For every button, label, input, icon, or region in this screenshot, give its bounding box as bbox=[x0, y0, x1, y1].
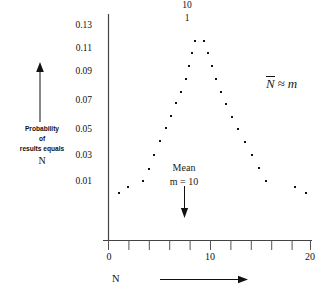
data-point bbox=[142, 180, 144, 182]
data-point bbox=[207, 52, 209, 54]
data-point bbox=[225, 103, 227, 105]
data-point bbox=[203, 40, 205, 42]
x-tick-label: 10 bbox=[200, 252, 220, 263]
data-point bbox=[118, 192, 120, 194]
top-annotation-1: 1 bbox=[178, 14, 196, 24]
data-point bbox=[244, 141, 246, 143]
y-axis-title: Probability of results equals N bbox=[6, 124, 78, 167]
data-point bbox=[194, 40, 196, 42]
top-annotation-10: 10 bbox=[178, 1, 196, 11]
data-point bbox=[220, 91, 222, 93]
data-point bbox=[294, 186, 296, 188]
data-point bbox=[231, 116, 233, 118]
y-tick-label: 0.01 bbox=[62, 177, 92, 187]
x-direction-arrow bbox=[160, 276, 248, 283]
formula-m-symbol: m bbox=[288, 76, 297, 91]
data-point bbox=[148, 168, 150, 170]
mean-annotation-line1: Mean bbox=[152, 161, 216, 175]
x-axis-title: N bbox=[112, 273, 120, 284]
y-axis-title-line2: of bbox=[6, 134, 78, 144]
data-point bbox=[159, 140, 161, 142]
data-point bbox=[251, 154, 253, 156]
poisson-distribution-figure: 0.13 0.11 0.09 0.07 0.05 0.03 0.01 0 10 … bbox=[0, 0, 332, 303]
data-point bbox=[305, 192, 307, 194]
x-tick-label: 0 bbox=[99, 252, 119, 263]
y-axis-title-line4: N bbox=[6, 155, 78, 167]
data-point bbox=[165, 127, 167, 129]
data-point bbox=[170, 115, 172, 117]
y-axis-title-line1: Probability bbox=[6, 124, 78, 134]
y-tick-label: 0.13 bbox=[62, 21, 92, 31]
formula-approx-symbol: ≈ bbox=[278, 76, 285, 91]
data-point bbox=[153, 154, 155, 156]
x-tick-label: 20 bbox=[300, 252, 320, 263]
mean-annotation: Mean m = 10 bbox=[152, 161, 216, 188]
formula-nbar-approx-m: N≈m bbox=[266, 76, 297, 92]
data-point bbox=[175, 102, 177, 104]
data-point bbox=[265, 180, 267, 182]
data-point bbox=[127, 186, 129, 188]
y-tick-label: 0.09 bbox=[62, 67, 92, 77]
data-point bbox=[180, 91, 182, 93]
data-point bbox=[185, 78, 187, 80]
mean-arrow bbox=[181, 186, 188, 218]
y-tick-label: 0.07 bbox=[62, 96, 92, 106]
data-point bbox=[188, 65, 190, 67]
data-point bbox=[211, 65, 213, 67]
formula-nbar-symbol: N bbox=[266, 76, 275, 90]
x-axis-ticks bbox=[109, 241, 311, 251]
data-point bbox=[191, 52, 193, 54]
data-point bbox=[215, 78, 217, 80]
y-direction-arrow bbox=[36, 62, 44, 122]
data-point bbox=[237, 128, 239, 130]
data-point bbox=[258, 167, 260, 169]
mean-annotation-line2: m = 10 bbox=[152, 175, 216, 189]
y-axis-title-line3: results equals bbox=[6, 144, 78, 154]
y-tick-label: 0.11 bbox=[62, 44, 92, 54]
